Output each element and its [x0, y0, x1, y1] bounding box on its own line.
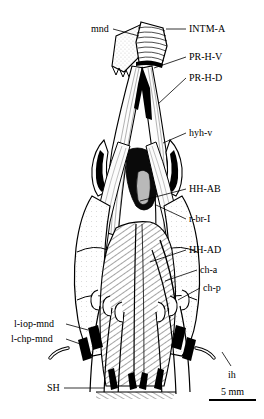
label-pr-h-d: PR-H-D: [189, 73, 222, 83]
label-sh: SH: [47, 383, 60, 393]
label-mnd: mnd: [91, 24, 109, 34]
label-hh-ab: HH-AB: [189, 184, 221, 194]
label-r-br-i: r-br-I: [189, 214, 210, 224]
label-pr-h-v: PR-H-V: [189, 52, 222, 62]
label-hyh-v: hyh-v: [189, 128, 212, 138]
label-hh-ad: HH-AD: [189, 245, 221, 255]
label-ih: ih: [228, 370, 236, 380]
label-ch-p: ch-p: [203, 283, 221, 293]
label-ch-a: ch-a: [200, 265, 217, 275]
label-intm-a: INTM-A: [189, 24, 225, 34]
label-l-chp-mnd: l-chp-mnd: [11, 334, 53, 344]
anatomy-drawing: [0, 0, 264, 419]
scale-bar-label: 5 mm: [221, 386, 244, 397]
branchial-arch-region: [50, 196, 214, 399]
label-l-iop-mnd: l-iop-mnd: [14, 319, 54, 329]
anatomical-figure: mnd INTM-A PR-H-V PR-H-D hyh-v HH-AB r-b…: [0, 0, 264, 419]
